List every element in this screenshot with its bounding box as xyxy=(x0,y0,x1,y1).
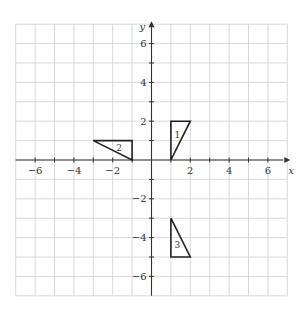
triangle-label: 1 xyxy=(174,130,180,140)
axes: x y xyxy=(16,21,295,296)
coordinate-grid: x y −6−4−2246642−2−4−6 123 xyxy=(0,0,302,318)
y-tick-label: −4 xyxy=(132,232,147,243)
x-tick-label: −4 xyxy=(67,165,82,176)
y-tick-label: 2 xyxy=(140,116,146,127)
y-tick-label: 6 xyxy=(140,38,146,49)
y-tick-label: −6 xyxy=(132,271,147,282)
y-tick-label: 4 xyxy=(140,77,146,88)
x-axis-label: x xyxy=(288,165,294,176)
x-tick-label: −2 xyxy=(105,165,120,176)
y-axis-label: y xyxy=(139,21,146,32)
x-tick-label: −6 xyxy=(28,165,43,176)
x-tick-label: 4 xyxy=(226,165,232,176)
x-tick-label: 2 xyxy=(187,165,193,176)
y-tick-label: −2 xyxy=(132,193,147,204)
triangle-label: 3 xyxy=(174,240,180,250)
triangle-label: 2 xyxy=(116,143,122,153)
x-tick-label: 6 xyxy=(265,165,271,176)
